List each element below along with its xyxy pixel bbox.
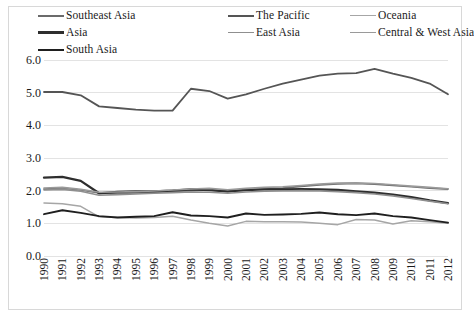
y-axis: 0.01.02.03.04.05.06.0 [8, 60, 44, 256]
legend-label: Oceania [378, 10, 416, 22]
chart-legend: Southeast AsiaThe PacificOceaniaAsiaEast… [38, 10, 456, 56]
x-axis-tick-label: 2004 [295, 258, 307, 281]
x-axis-tick-label: 2007 [350, 258, 362, 281]
y-axis-tick-label: 4.0 [26, 119, 41, 131]
legend-item-southeast-asia[interactable]: Southeast Asia [38, 10, 135, 22]
legend-item-central-west-asia[interactable]: Central & West Asia [350, 27, 474, 39]
line-chart-svg [44, 60, 448, 256]
legend-item-oceania[interactable]: Oceania [350, 10, 416, 22]
x-axis-tick-label: 2001 [240, 258, 252, 281]
legend-swatch-line-icon [38, 31, 64, 34]
x-axis-tick-label: 2009 [387, 258, 399, 281]
x-axis-tick-label: 1992 [75, 258, 87, 281]
legend-item-south-asia[interactable]: South Asia [38, 44, 117, 56]
plot-area [44, 60, 448, 256]
x-axis-tick-label: 1994 [111, 258, 123, 281]
x-axis-tick-label: 2011 [424, 258, 436, 281]
y-axis-tick-label: 6.0 [26, 54, 41, 66]
legend-swatch-line-icon [38, 49, 64, 51]
legend-swatch-line-icon [228, 15, 254, 17]
x-axis-tick-label: 1996 [148, 258, 160, 281]
legend-item-east-asia[interactable]: East Asia [228, 27, 300, 39]
x-axis-tick-label: 1997 [167, 258, 179, 281]
series-line-asia [44, 177, 448, 203]
legend-swatch-line-icon [228, 32, 254, 33]
legend-swatch-line-icon [350, 15, 376, 16]
legend-label: The Pacific [256, 10, 310, 22]
x-axis: 1990199119921993199419951996199719981999… [44, 258, 448, 310]
x-axis-tick-label: 1990 [38, 258, 50, 281]
x-axis-tick-label: 2003 [277, 258, 289, 281]
series-line-the-pacific [44, 69, 448, 111]
x-axis-tick-label: 1993 [93, 258, 105, 281]
y-axis-tick-label: 3.0 [26, 152, 41, 164]
legend-label: South Asia [66, 44, 117, 56]
x-axis-tick-label: 2012 [442, 258, 454, 281]
y-axis-tick-label: 2.0 [26, 185, 41, 197]
x-axis-tick-label: 2000 [222, 258, 234, 281]
x-axis-tick-label: 1991 [56, 258, 68, 281]
legend-swatch-line-icon [38, 15, 64, 17]
legend-label: Asia [66, 27, 87, 39]
x-axis-tick-label: 2010 [405, 258, 417, 281]
x-axis-tick-label: 1998 [185, 258, 197, 281]
legend-label: Southeast Asia [66, 10, 135, 22]
y-axis-tick-label: 5.0 [26, 87, 41, 99]
y-axis-tick-label: 1.0 [26, 217, 41, 229]
legend-item-asia[interactable]: Asia [38, 27, 87, 39]
legend-label: East Asia [256, 27, 300, 39]
x-axis-tick-label: 2008 [369, 258, 381, 281]
x-axis-tick-label: 1999 [203, 258, 215, 281]
x-axis-tick-label: 1995 [130, 258, 142, 281]
x-axis-tick-label: 2002 [258, 258, 270, 281]
legend-label: Central & West Asia [378, 27, 474, 39]
legend-item-the-pacific[interactable]: The Pacific [228, 10, 310, 22]
x-axis-tick-label: 2006 [332, 258, 344, 281]
legend-swatch-line-icon [350, 32, 376, 33]
x-axis-tick-label: 2005 [313, 258, 325, 281]
